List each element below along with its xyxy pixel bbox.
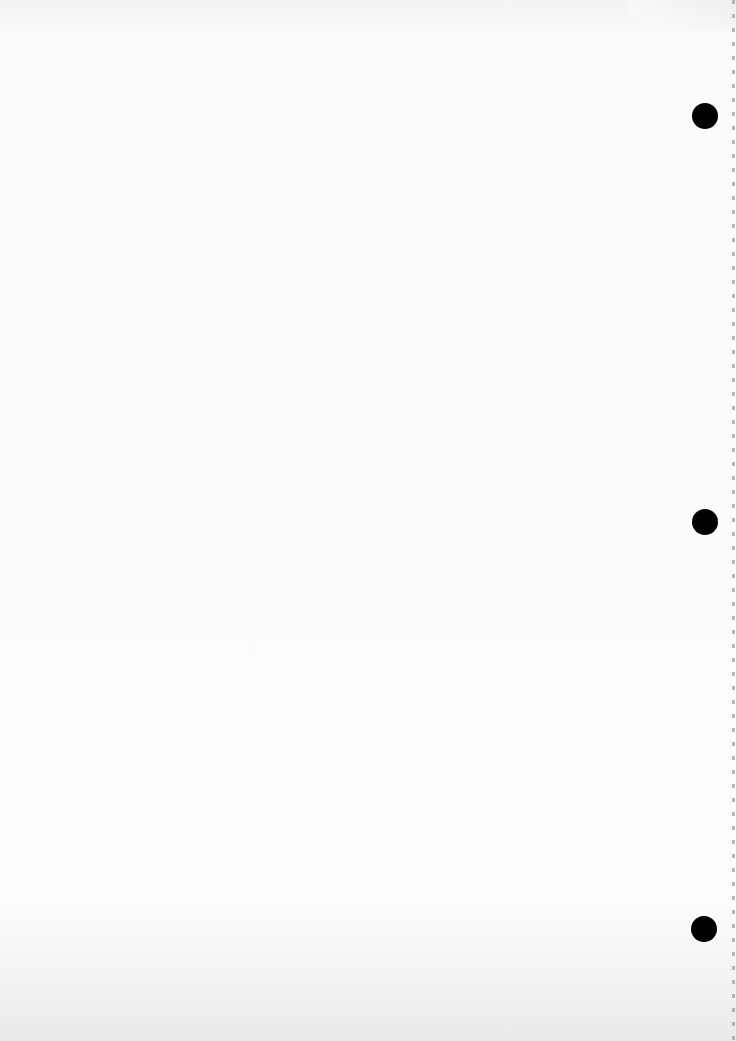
punch-hole-icon [692,103,718,129]
blank-page [0,0,737,1041]
page-corner-shading [627,0,737,30]
punch-hole-icon [692,509,718,535]
punch-hole-icon [691,916,717,942]
perforated-edge [732,0,735,1041]
